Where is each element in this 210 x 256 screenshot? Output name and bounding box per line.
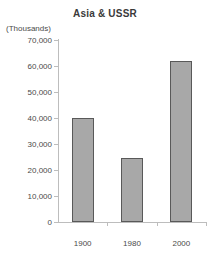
x-axis-label-1980: 1980: [123, 239, 141, 248]
y-axis-tick-label: 70,000: [28, 36, 52, 45]
x-axis-label-2000: 2000: [172, 239, 190, 248]
bar-series: [58, 40, 206, 222]
x-axis-tick-mark: [107, 222, 108, 226]
bar-2000[interactable]: [170, 61, 192, 222]
y-axis-tick-label: 40,000: [28, 114, 52, 123]
y-axis-tick-label: 20,000: [28, 166, 52, 175]
bar-slot: [121, 40, 143, 222]
bar-chart: Asia & USSR (Thousands) 70,00060,00050,0…: [0, 0, 210, 256]
x-axis-line: [58, 222, 206, 223]
bar-slot: [170, 40, 192, 222]
y-axis-tick-label: 0: [48, 218, 52, 227]
bar-1980[interactable]: [121, 158, 143, 222]
chart-title: Asia & USSR: [0, 8, 210, 19]
y-axis-tick-label: 50,000: [28, 88, 52, 97]
bar-1900[interactable]: [72, 118, 94, 222]
x-axis-tick-mark: [157, 222, 158, 226]
x-axis-label-1900: 1900: [74, 239, 92, 248]
x-axis-tick-mark: [206, 222, 207, 226]
y-axis-tick-label: 30,000: [28, 140, 52, 149]
y-axis-tick-label: 10,000: [28, 192, 52, 201]
y-axis-tick-mark: [54, 222, 58, 223]
bar-slot: [72, 40, 94, 222]
y-axis-tick-label: 60,000: [28, 62, 52, 71]
y-axis-units-caption: (Thousands): [6, 24, 51, 33]
